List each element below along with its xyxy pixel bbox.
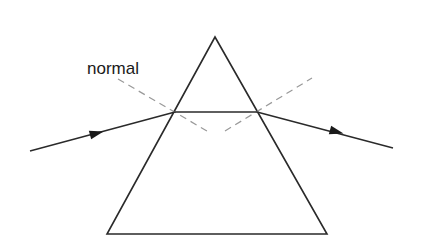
emergent-arrow-icon bbox=[329, 126, 345, 138]
prism bbox=[107, 37, 327, 234]
incident-arrow-icon bbox=[89, 127, 105, 139]
prism-refraction-diagram: normal bbox=[0, 0, 421, 246]
emergent-ray bbox=[257, 112, 393, 148]
normal-label: normal bbox=[87, 59, 139, 78]
